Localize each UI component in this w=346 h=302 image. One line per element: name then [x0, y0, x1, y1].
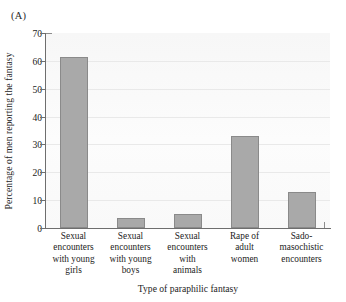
x-axis-title: Type of paraphilic fantasy	[45, 283, 331, 294]
gridline	[45, 89, 330, 90]
x-axis-label-line: boys	[102, 265, 159, 276]
x-axis-label-line: encounters	[45, 242, 102, 253]
bar	[174, 214, 202, 228]
x-axis-label-line: with young	[102, 254, 159, 265]
y-axis-tick-mark	[40, 172, 45, 173]
panel-label: (A)	[11, 10, 26, 21]
x-axis-category-label: Rape ofadultwomen	[216, 231, 273, 265]
x-axis-category-labels: Sexualencounterswith younggirlsSexualenc…	[45, 231, 331, 279]
y-axis-top-cap	[45, 33, 52, 34]
x-axis-label-line: encounters	[273, 254, 330, 265]
y-axis-tick-mark	[40, 61, 45, 62]
x-axis-label-line: Sexual	[45, 231, 102, 242]
x-axis-label-line: Sexual	[159, 231, 216, 242]
x-axis-label-line: Sexual	[102, 231, 159, 242]
x-axis-category-label: Sexualencounterswithanimals	[159, 231, 216, 277]
x-axis-label-line: encounters	[102, 242, 159, 253]
y-axis-line	[45, 33, 46, 229]
gridline	[45, 117, 330, 118]
x-axis-label-line: Sado-	[273, 231, 330, 242]
x-axis-label-line: girls	[45, 265, 102, 276]
figure-panel-a: (A) Percentage of men reporting the fant…	[0, 0, 346, 302]
y-axis-tick-mark	[40, 144, 45, 145]
y-axis-tick-mark	[40, 33, 45, 34]
x-axis-end-tick	[324, 222, 325, 228]
y-axis-tick-labels: 010203040506070	[16, 33, 42, 228]
x-axis-category-label: Sado-masochisticencounters	[273, 231, 330, 265]
y-axis-tick-mark	[40, 200, 45, 201]
bar	[60, 57, 88, 228]
gridline	[45, 61, 330, 62]
x-axis-label-line: with young	[45, 254, 102, 265]
gridline	[45, 172, 330, 173]
x-axis-label-line: adult	[216, 242, 273, 253]
y-axis-title-container: Percentage of men reporting the fantasy	[0, 33, 16, 229]
x-axis-label-line: animals	[159, 265, 216, 276]
x-axis-label-line: Rape of	[216, 231, 273, 242]
x-axis-label-line: encounters	[159, 242, 216, 253]
x-axis-category-label: Sexualencounterswith younggirls	[45, 231, 102, 277]
y-axis-title: Percentage of men reporting the fantasy	[3, 52, 14, 209]
bar	[288, 192, 316, 228]
bar	[231, 136, 259, 228]
x-axis-line	[45, 228, 331, 229]
x-axis-category-label: Sexualencounterswith youngboys	[102, 231, 159, 277]
y-axis-tick-mark	[40, 228, 45, 229]
x-axis-label-line: masochistic	[273, 242, 330, 253]
x-axis-label-line: with	[159, 254, 216, 265]
y-axis-tick-mark	[40, 117, 45, 118]
x-axis-label-line: women	[216, 254, 273, 265]
gridline	[45, 144, 330, 145]
bar	[117, 218, 145, 228]
y-axis-tick-mark	[40, 89, 45, 90]
